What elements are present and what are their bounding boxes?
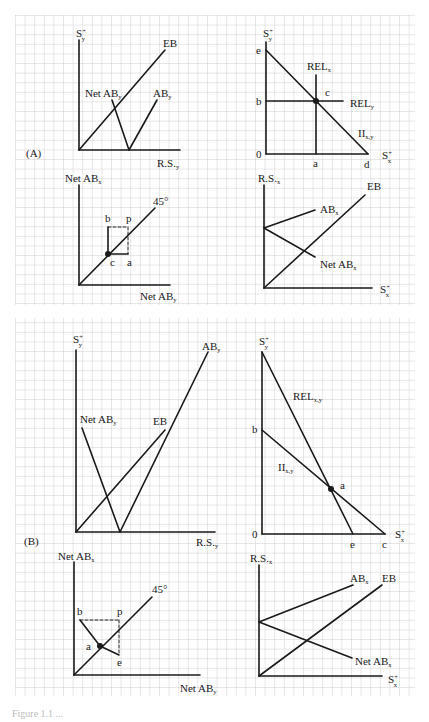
a-bl-point-b: b bbox=[105, 212, 111, 224]
a-bl-x-axis-label: Net ABy bbox=[140, 290, 177, 303]
a-bl-point-a: a bbox=[127, 256, 132, 268]
a-br-net-ab-label: Net ABx bbox=[320, 258, 357, 271]
b-br-net-ab-label: Net ABx bbox=[355, 655, 392, 668]
b-bl-point-b: b bbox=[77, 605, 83, 617]
a-tl-net-ab-label: Net ABy bbox=[85, 87, 122, 100]
b-tr-origin: 0 bbox=[252, 528, 258, 540]
b-tr-point-e: e bbox=[350, 538, 355, 550]
a-bl-45-label: 45° bbox=[153, 195, 168, 207]
a-br-eb-label: EB bbox=[367, 180, 381, 192]
a-bl-point-c: c bbox=[110, 256, 115, 268]
b-bl-45-label: 45° bbox=[152, 583, 167, 595]
figure-canvas: S+y EB Net ABy ABy (A) R.S.y S+y e b 0 a… bbox=[0, 0, 429, 722]
panel-a-label: (A) bbox=[26, 147, 42, 160]
a-tr-point-c-dot bbox=[313, 98, 319, 104]
a-tr-point-e: e bbox=[256, 44, 261, 56]
b-bl-y-axis-label: Net ABx bbox=[58, 550, 95, 563]
b-br-eb-label: EB bbox=[382, 572, 396, 584]
b-bl-point-e: e bbox=[117, 656, 122, 668]
a-tr-point-d: d bbox=[364, 158, 370, 170]
a-tl-eb-label: EB bbox=[163, 37, 177, 49]
b-bl-x-axis-label: Net ABy bbox=[180, 682, 217, 695]
b-tl-net-ab-label: Net ABy bbox=[80, 413, 117, 426]
b-bl-point-a-dot bbox=[97, 643, 103, 649]
b-tr-point-a-dot bbox=[328, 486, 334, 492]
grid-panel-a bbox=[15, 15, 415, 305]
b-bl-point-a: a bbox=[86, 640, 91, 652]
a-bl-point-p: p bbox=[126, 212, 132, 224]
figure-caption: Figure 1.1 ... bbox=[12, 708, 63, 719]
b-tr-point-a: a bbox=[340, 479, 345, 491]
a-tr-point-c: c bbox=[325, 86, 330, 98]
a-tr-point-b: b bbox=[256, 95, 262, 107]
b-tl-eb-label: EB bbox=[153, 415, 167, 427]
b-bl-point-p: p bbox=[117, 605, 123, 617]
b-tr-point-b: b bbox=[252, 423, 258, 435]
a-tr-origin: 0 bbox=[256, 148, 262, 160]
a-bl-y-axis-label: Net ABx bbox=[65, 172, 102, 185]
a-tr-point-a: a bbox=[313, 157, 318, 169]
panel-b-label: (B) bbox=[24, 535, 39, 548]
grid-panel-b bbox=[15, 318, 415, 696]
b-tr-point-c: c bbox=[382, 538, 387, 550]
